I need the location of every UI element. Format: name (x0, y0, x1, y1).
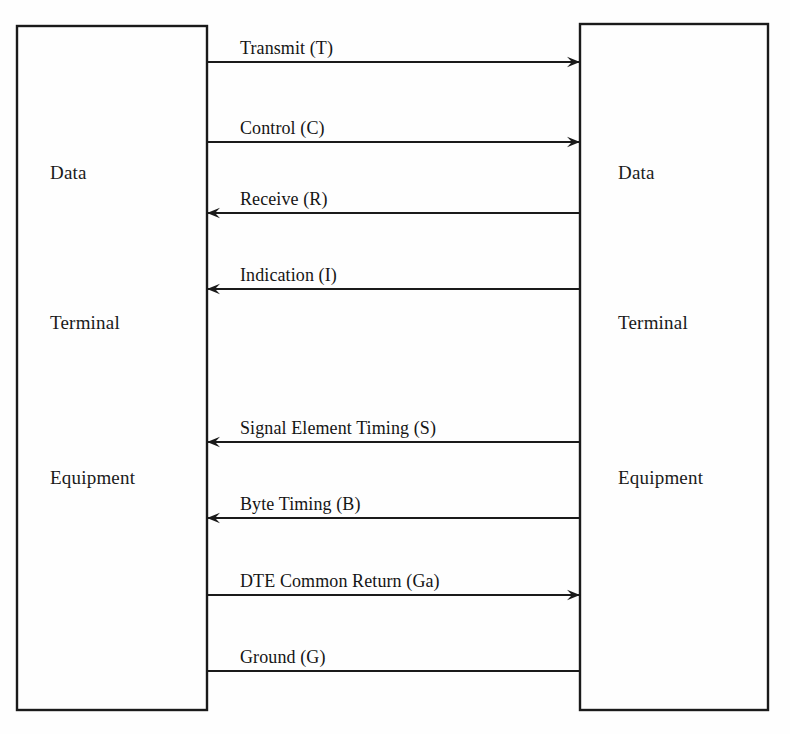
circuit-label-dte-common-return: DTE Common Return (Ga) (240, 571, 440, 592)
circuit-byte-timing (207, 513, 580, 523)
left-dte-box (17, 26, 207, 710)
interchange-circuits-diagram: Transmit (T)Control (C)Receive (R)Indica… (0, 0, 790, 734)
right-box-label-terminal: Terminal (618, 312, 688, 333)
circuit-dte-common-return (207, 590, 580, 600)
circuit-label-receive: Receive (R) (240, 189, 328, 210)
circuit-label-indication: Indication (I) (240, 265, 337, 286)
diagram-canvas: Transmit (T)Control (C)Receive (R)Indica… (0, 0, 790, 734)
box-labels-group: DataTerminalEquipmentDataTerminalEquipme… (50, 162, 704, 488)
circuit-labels-group: Transmit (T)Control (C)Receive (R)Indica… (240, 38, 440, 668)
circuit-control (207, 137, 580, 147)
right-dte-box (580, 24, 768, 710)
circuit-label-signal-element-timing: Signal Element Timing (S) (240, 418, 436, 439)
circuit-receive (207, 208, 580, 218)
right-box-label-equipment: Equipment (618, 467, 704, 488)
circuit-label-ground: Ground (G) (240, 647, 325, 668)
circuit-label-transmit: Transmit (T) (240, 38, 333, 59)
circuit-label-byte-timing: Byte Timing (B) (240, 494, 361, 515)
circuit-signal-element-timing (207, 437, 580, 447)
circuit-indication (207, 284, 580, 294)
circuit-transmit (207, 57, 580, 67)
left-box-label-terminal: Terminal (50, 312, 120, 333)
left-box-label-data: Data (50, 162, 87, 183)
right-box-label-data: Data (618, 162, 655, 183)
left-box-label-equipment: Equipment (50, 467, 136, 488)
circuit-label-control: Control (C) (240, 118, 325, 139)
